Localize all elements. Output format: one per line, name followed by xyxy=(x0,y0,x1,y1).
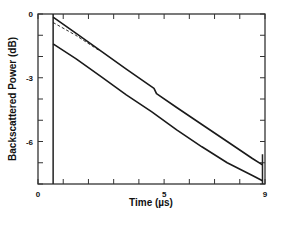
x-tick-label: 0 xyxy=(36,190,41,199)
y-tick-labels: 0-3-6 xyxy=(26,10,34,147)
x-axis-label: Time (µs) xyxy=(129,197,173,208)
data-series xyxy=(53,17,262,181)
plot-border xyxy=(38,14,265,184)
y-tick-label: 0 xyxy=(29,10,34,19)
y-tick-label: -3 xyxy=(26,74,34,83)
plot-frame xyxy=(38,14,265,184)
y-axis-label: Backscattered Power (dB) xyxy=(7,37,18,161)
series-line xyxy=(53,44,262,181)
axis-ticks xyxy=(38,14,265,184)
chart: 059 0-3-6 Time (µs) Backscattered Power … xyxy=(0,0,281,225)
series-line xyxy=(53,17,262,165)
series-line xyxy=(53,23,98,51)
x-tick-label: 9 xyxy=(263,190,268,199)
y-tick-label: -6 xyxy=(26,138,34,147)
